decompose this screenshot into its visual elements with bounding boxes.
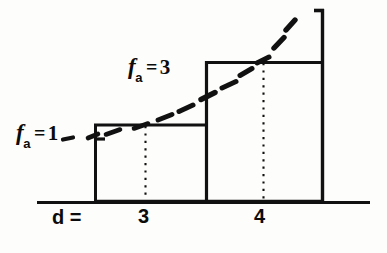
axis-variable-label: d =: [52, 207, 81, 227]
trend-dash: [274, 38, 284, 49]
label-fa-3: fa=3: [128, 55, 171, 81]
trend-dash: [63, 138, 73, 140]
fa1-value: 1: [48, 121, 59, 145]
trend-dash: [106, 130, 120, 135]
fa1-subscript: a: [23, 136, 31, 151]
trend-dash: [201, 93, 215, 100]
bar-d4: [205, 61, 324, 202]
bar-d3: [94, 124, 206, 202]
trend-dash: [179, 105, 193, 112]
label-fa-1: fa=1: [16, 121, 59, 147]
histogram-figure: fa=1 fa=3 d = 3 4: [0, 0, 387, 253]
fa3-equals: =: [144, 56, 160, 78]
fa3-value: 3: [160, 55, 171, 79]
trend-dash: [286, 20, 295, 30]
trend-dash: [158, 115, 172, 121]
trend-dash: [222, 82, 236, 89]
trend-dash: [240, 69, 252, 76]
fa1-equals: =: [32, 122, 48, 144]
axis-tick-label-3: 3: [138, 206, 149, 226]
right-riser: [314, 9, 324, 202]
axis-tick-label-4: 4: [254, 206, 265, 226]
fa3-subscript: a: [135, 70, 143, 85]
cumulative-dashed-line: [63, 20, 295, 140]
